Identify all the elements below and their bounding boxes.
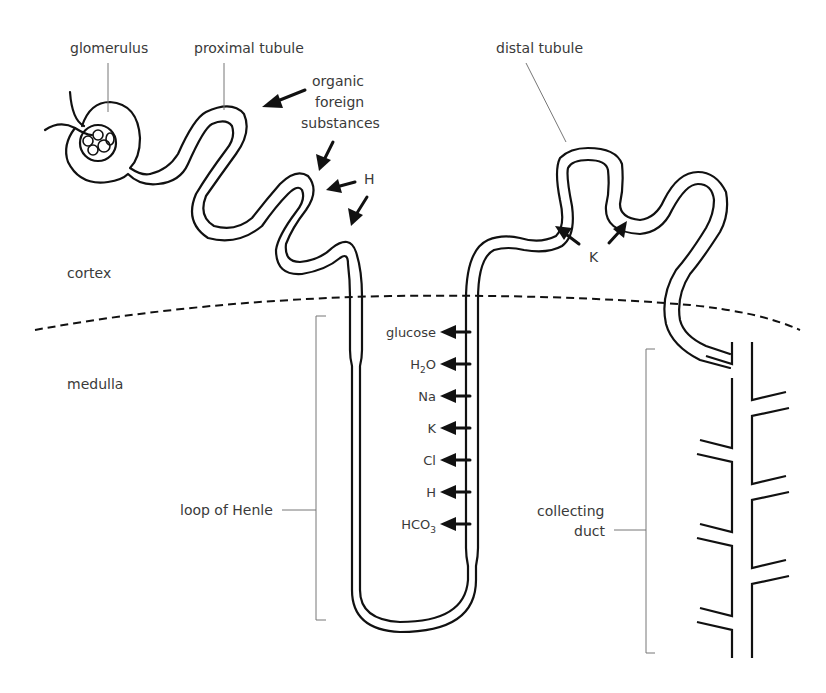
label-h-secretion: H <box>364 171 375 187</box>
nephron-diagram: cortex medulla glomerulus proximal tubul… <box>0 0 826 693</box>
reabsorbed-potassium: K <box>427 421 436 436</box>
region-label-medulla: medulla <box>67 376 123 392</box>
loop-of-henle-bend <box>360 566 468 622</box>
reabsorbed-sodium: Na <box>418 389 436 404</box>
reabsorbed-hydrogen: H <box>426 485 436 500</box>
label-k-secretion: K <box>589 249 599 265</box>
loop-of-henle-bracket <box>316 316 326 620</box>
reabsorbed-bicarbonate: HCO3 <box>401 517 436 535</box>
label-organic-2: foreign <box>315 94 364 110</box>
reabsorbed-chloride: Cl <box>423 453 436 468</box>
region-label-cortex: cortex <box>67 265 111 281</box>
distal-tubule-leader <box>526 63 566 142</box>
label-distal-tubule: distal tubule <box>496 40 583 56</box>
label-proximal-tubule: proximal tubule <box>194 40 304 56</box>
label-organic-3: substances <box>301 115 380 131</box>
collecting-duct-bracket <box>646 349 655 653</box>
label-glomerulus: glomerulus <box>70 40 148 56</box>
reabsorbed-glucose: glucose <box>386 325 436 340</box>
reabsorbed-water: H2O <box>410 357 436 375</box>
secretion-arrows-distal <box>555 221 627 244</box>
label-organic-1: organic <box>312 73 364 89</box>
label-collecting-duct-2: duct <box>574 523 605 539</box>
label-collecting-duct-1: collecting <box>537 503 605 519</box>
glomerulus <box>45 92 158 184</box>
label-loop-of-henle: loop of Henle <box>180 502 273 518</box>
collecting-duct <box>697 342 789 658</box>
